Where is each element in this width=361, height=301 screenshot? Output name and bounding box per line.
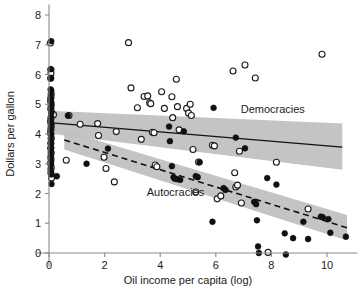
data-point xyxy=(105,146,111,152)
x-axis-title: Oil income per capita (log) xyxy=(124,274,252,286)
data-point xyxy=(236,148,242,154)
data-point xyxy=(174,104,180,110)
data-point xyxy=(65,113,71,119)
data-point xyxy=(77,121,83,127)
data-point xyxy=(187,101,193,107)
y-tick-label: 6 xyxy=(35,69,41,81)
data-point xyxy=(190,146,196,152)
data-point xyxy=(234,182,240,188)
data-point xyxy=(63,157,69,163)
data-point xyxy=(167,138,173,144)
data-point xyxy=(305,236,311,242)
data-point xyxy=(134,105,140,111)
data-point xyxy=(273,159,279,165)
data-point xyxy=(218,193,224,199)
data-point xyxy=(238,200,244,206)
data-point xyxy=(274,182,280,188)
y-tick-label: 2 xyxy=(35,188,41,200)
data-point xyxy=(166,124,172,130)
data-point xyxy=(230,68,236,74)
x-tick-label: 2 xyxy=(102,259,108,271)
data-point xyxy=(343,234,349,240)
y-axis-title: Dollars per gallon xyxy=(4,91,16,177)
data-point xyxy=(327,230,333,236)
y-tick-label: 8 xyxy=(35,9,41,21)
data-point xyxy=(101,154,107,160)
y-tick-label: 3 xyxy=(35,158,41,170)
y-tick-label: 5 xyxy=(35,98,41,110)
data-point xyxy=(242,62,248,68)
data-point xyxy=(265,249,271,255)
data-point xyxy=(325,216,331,222)
data-point xyxy=(95,132,101,138)
data-point xyxy=(232,170,238,176)
data-point xyxy=(300,219,306,225)
data-point xyxy=(188,113,194,119)
data-point xyxy=(211,105,217,111)
data-point xyxy=(254,217,260,223)
data-point xyxy=(169,163,175,169)
x-tick-label: 0 xyxy=(46,259,52,271)
data-point xyxy=(173,76,179,82)
data-point xyxy=(177,177,183,183)
data-point xyxy=(255,244,261,250)
data-point xyxy=(151,130,157,136)
series-annotation-democracies: Democracies xyxy=(241,103,306,115)
x-tick-label: 10 xyxy=(321,259,333,271)
data-point xyxy=(233,135,239,141)
x-tick-label: 4 xyxy=(157,259,163,271)
y-tick-label: 0 xyxy=(35,247,41,259)
data-point xyxy=(103,166,109,172)
data-point xyxy=(282,230,288,236)
data-point xyxy=(84,161,90,167)
data-point xyxy=(211,143,217,149)
data-point xyxy=(159,89,165,95)
x-tick-label: 8 xyxy=(268,259,274,271)
y-tick-label: 1 xyxy=(35,217,41,229)
scatter-plot-figure: 0123456780246810 DemocraciesAutocracies … xyxy=(0,0,361,301)
data-point xyxy=(264,175,270,181)
data-point xyxy=(320,214,326,220)
data-point xyxy=(197,159,203,165)
data-point xyxy=(290,235,296,241)
data-point xyxy=(181,128,187,134)
data-point xyxy=(145,93,151,99)
y-tick-label: 7 xyxy=(35,39,41,51)
series-annotation-autocracies: Autocracies xyxy=(147,186,205,198)
data-point xyxy=(195,174,201,180)
data-point xyxy=(128,85,134,91)
x-tick-label: 6 xyxy=(213,259,219,271)
data-point xyxy=(252,75,258,81)
data-point xyxy=(305,206,311,212)
data-point xyxy=(113,129,119,135)
data-point xyxy=(95,121,101,127)
data-point xyxy=(210,219,216,225)
data-point xyxy=(170,115,176,121)
plot-canvas: 0123456780246810 DemocraciesAutocracies … xyxy=(0,0,361,301)
data-point xyxy=(54,173,60,179)
data-point xyxy=(223,187,229,193)
data-point xyxy=(253,201,259,207)
data-point xyxy=(169,94,175,100)
data-point xyxy=(138,136,144,142)
data-point xyxy=(161,105,167,111)
data-point xyxy=(111,179,117,185)
data-point xyxy=(126,40,132,46)
data-point xyxy=(242,145,248,151)
y-tick-label: 4 xyxy=(35,128,41,140)
data-point xyxy=(148,101,154,107)
data-point xyxy=(154,164,160,170)
data-point xyxy=(319,51,325,57)
